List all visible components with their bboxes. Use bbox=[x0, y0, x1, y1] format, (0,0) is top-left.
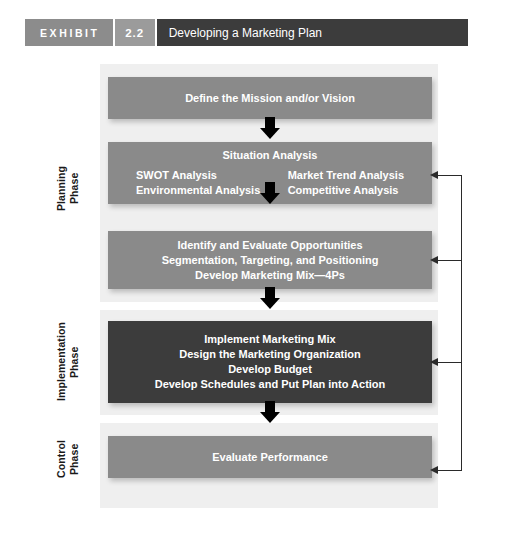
phase-label-implementation: Implementation Phase bbox=[55, 314, 80, 410]
feedback-branch-situation bbox=[437, 175, 462, 176]
feedback-arrow-icon bbox=[430, 171, 438, 179]
feedback-arrow-icon bbox=[430, 256, 438, 264]
identify-line3: Develop Marketing Mix—4Ps bbox=[195, 268, 345, 283]
feedback-arrow-icon bbox=[430, 358, 438, 366]
exhibit-label: EXHIBIT bbox=[25, 19, 113, 46]
phase-label-control-line2: Phase bbox=[68, 443, 80, 474]
implement-line3: Develop Budget bbox=[228, 362, 312, 377]
down-arrow-icon bbox=[260, 401, 280, 423]
feedback-arrow-icon bbox=[430, 466, 438, 474]
phase-label-planning: Planning Phase bbox=[55, 155, 80, 221]
implement-line2: Design the Marketing Organization bbox=[179, 347, 361, 362]
situation-right-line2: Competitive Analysis bbox=[288, 183, 404, 198]
step-box-identify-evaluate: Identify and Evaluate Opportunities Segm… bbox=[108, 231, 432, 289]
down-arrow-icon bbox=[260, 182, 280, 204]
feedback-loop-line bbox=[461, 175, 462, 471]
phase-label-control: Control Phase bbox=[55, 429, 80, 489]
exhibit-number: 2.2 bbox=[113, 19, 155, 46]
down-arrow-icon bbox=[260, 287, 280, 309]
phase-label-planning-line2: Phase bbox=[68, 172, 80, 203]
step-heading-situation-analysis: Situation Analysis bbox=[223, 148, 318, 163]
identify-line2: Segmentation, Targeting, and Positioning bbox=[162, 253, 379, 268]
step-box-define-mission: Define the Mission and/or Vision bbox=[108, 77, 432, 119]
situation-analysis-right-column: Market Trend Analysis Competitive Analys… bbox=[288, 168, 404, 198]
phase-label-planning-line1: Planning bbox=[55, 165, 67, 210]
situation-left-line2: Environmental Analysis bbox=[136, 183, 260, 198]
step-text-evaluate-performance: Evaluate Performance bbox=[212, 450, 328, 465]
implement-line1: Implement Marketing Mix bbox=[204, 332, 335, 347]
feedback-branch-identify bbox=[437, 260, 462, 261]
identify-line1: Identify and Evaluate Opportunities bbox=[177, 238, 362, 253]
situation-left-line1: SWOT Analysis bbox=[136, 168, 260, 183]
feedback-branch-implement bbox=[437, 362, 462, 363]
step-box-evaluate-performance: Evaluate Performance bbox=[108, 436, 432, 478]
step-text-define-mission: Define the Mission and/or Vision bbox=[185, 91, 355, 106]
down-arrow-icon bbox=[260, 117, 280, 139]
exhibit-header: EXHIBIT 2.2 Developing a Marketing Plan bbox=[25, 19, 468, 46]
phase-label-implementation-line1: Implementation bbox=[55, 323, 67, 402]
implement-line4: Develop Schedules and Put Plan into Acti… bbox=[155, 377, 386, 392]
feedback-branch-evaluate bbox=[437, 470, 462, 471]
marketing-plan-flowchart: Planning Phase Implementation Phase Cont… bbox=[0, 55, 521, 551]
situation-analysis-left-column: SWOT Analysis Environmental Analysis bbox=[136, 168, 260, 198]
step-box-implement-marketing-mix: Implement Marketing Mix Design the Marke… bbox=[108, 321, 432, 403]
phase-label-implementation-line2: Phase bbox=[68, 346, 80, 377]
situation-right-line1: Market Trend Analysis bbox=[288, 168, 404, 183]
phase-label-control-line1: Control bbox=[55, 440, 67, 478]
exhibit-title: Developing a Marketing Plan bbox=[155, 19, 468, 46]
